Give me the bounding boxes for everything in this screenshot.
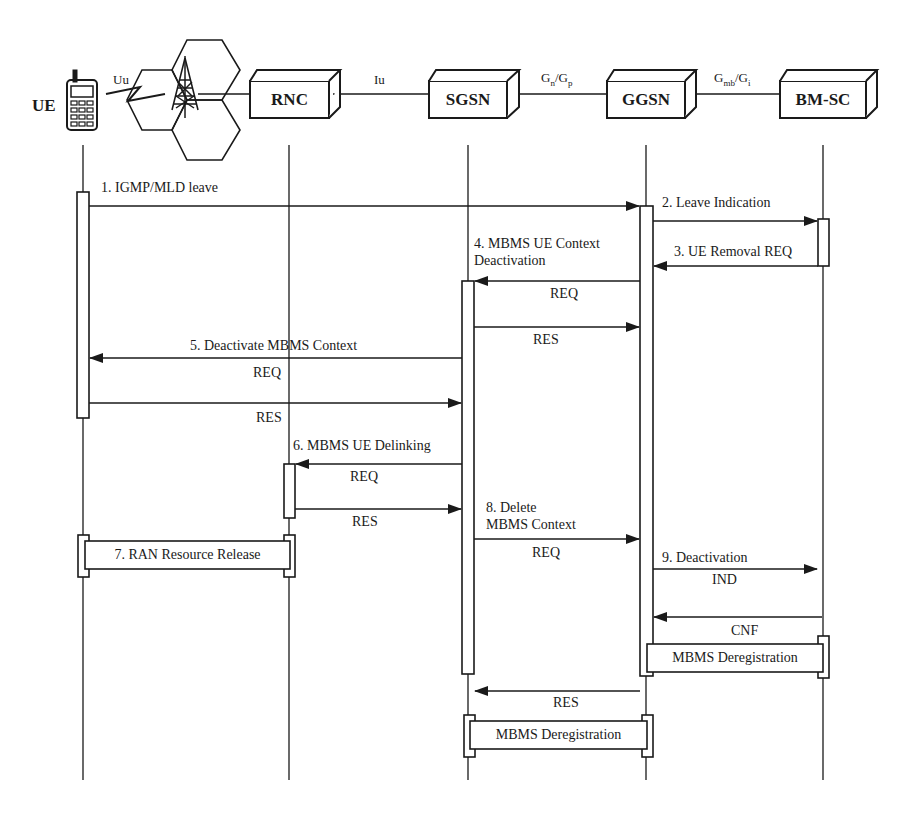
mobile-phone-icon (67, 70, 97, 130)
msg9-cnf-label: CNF (731, 623, 758, 639)
msg1-label: 1. IGMP/MLD leave (101, 180, 218, 196)
gn-gp-interface-label: Gn/Gp (541, 70, 572, 88)
ran-resource-release-label: 7. RAN Resource Release (85, 547, 290, 563)
bmsc-activation-bar-1 (818, 219, 829, 266)
msg4-req-label: REQ (550, 286, 578, 302)
msg9-title: 9. Deactivation (662, 550, 748, 566)
sequence-diagram-canvas (0, 0, 914, 820)
msg4-res-label: RES (533, 332, 559, 348)
rnc-activation-bar (284, 464, 295, 518)
iu-interface-label: Iu (374, 72, 385, 88)
antenna-tower-icon (172, 56, 198, 118)
msg8-title-line1: 8. Delete (486, 500, 537, 516)
msg6-res-label: RES (352, 514, 378, 530)
msg4-title-line1: 4. MBMS UE Context (474, 236, 600, 252)
rnc-node-label: RNC (250, 90, 329, 110)
msg5-title: 5. Deactivate MBMS Context (190, 338, 357, 354)
sgsn-activation-bar (462, 281, 474, 674)
ggsn-node-label: GGSN (607, 90, 685, 110)
msg8-title-line2: MBMS Context (486, 517, 576, 533)
msg2-label: 2. Leave Indication (662, 195, 770, 211)
sgsn-node-label: SGSN (429, 90, 507, 110)
final-res-label: RES (553, 695, 579, 711)
ue-activation-bar (77, 192, 89, 418)
msg5-res-label: RES (256, 410, 282, 426)
lightning-radio-link-icon (106, 87, 165, 101)
bmsc-node-label: BM-SC (780, 90, 866, 110)
ue-node-label: UE (32, 96, 56, 116)
msg4-title-line2: Deactivation (474, 253, 546, 269)
uu-interface-label: Uu (113, 72, 129, 88)
lifelines (83, 145, 823, 780)
hexagon-cell-icon (127, 40, 240, 160)
msg3-label: 3. UE Removal REQ (674, 244, 792, 260)
ggsn-activation-bar (640, 206, 653, 676)
msg5-req-label: REQ (253, 365, 281, 381)
msg8-req-label: REQ (532, 545, 560, 561)
msg6-req-label: REQ (350, 469, 378, 485)
msg6-title: 6. MBMS UE Delinking (293, 438, 431, 454)
bmsc-deregistration-label: MBMS Deregistration (647, 650, 823, 666)
msg9-ind-label: IND (712, 572, 737, 588)
gmb-gi-interface-label: Gmb/Gi (714, 70, 750, 88)
sgsn-ggsn-deregistration-label: MBMS Deregistration (470, 727, 647, 743)
